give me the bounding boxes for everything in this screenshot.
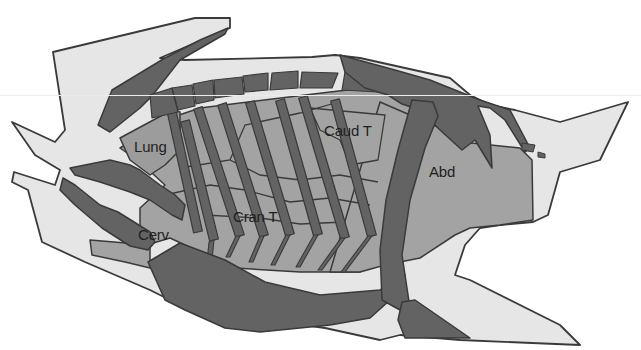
label-caud-t: Caud T: [324, 122, 372, 139]
vertebra-7: [300, 72, 338, 88]
shape-layer: [12, 18, 628, 345]
faint-divider-line: [0, 95, 641, 96]
vertebra-5: [243, 73, 268, 92]
label-lung: Lung: [134, 138, 167, 155]
vertebra-6: [270, 71, 298, 90]
label-cerv: Cerv: [138, 226, 169, 243]
tail-vertebra-1: [522, 143, 535, 152]
vertebra-3: [193, 80, 214, 104]
anatomy-diagram: [0, 0, 641, 350]
label-cran-t: Cran T: [233, 208, 277, 225]
label-abd: Abd: [429, 163, 455, 180]
